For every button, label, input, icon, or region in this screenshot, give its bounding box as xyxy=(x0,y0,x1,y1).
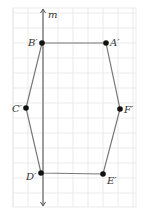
vertex-point xyxy=(100,171,106,177)
label-c-prime: C′ xyxy=(12,103,23,114)
label-e-prime: E′ xyxy=(106,175,117,186)
line-m-label: m xyxy=(48,9,57,20)
label-f-prime: F′ xyxy=(123,104,134,115)
line-m xyxy=(41,9,46,206)
label-b-prime: B′ xyxy=(27,37,38,48)
vertex-point xyxy=(38,170,44,176)
vertex-point xyxy=(39,40,45,46)
reflection-diagram: m A′ B′ C′ D′ E′ F′ xyxy=(0,0,144,218)
vertex-point xyxy=(117,106,123,112)
vertex-point xyxy=(23,105,29,111)
label-d-prime: D′ xyxy=(25,171,37,182)
label-a-prime: A′ xyxy=(109,37,120,48)
vertex-point xyxy=(103,40,109,46)
